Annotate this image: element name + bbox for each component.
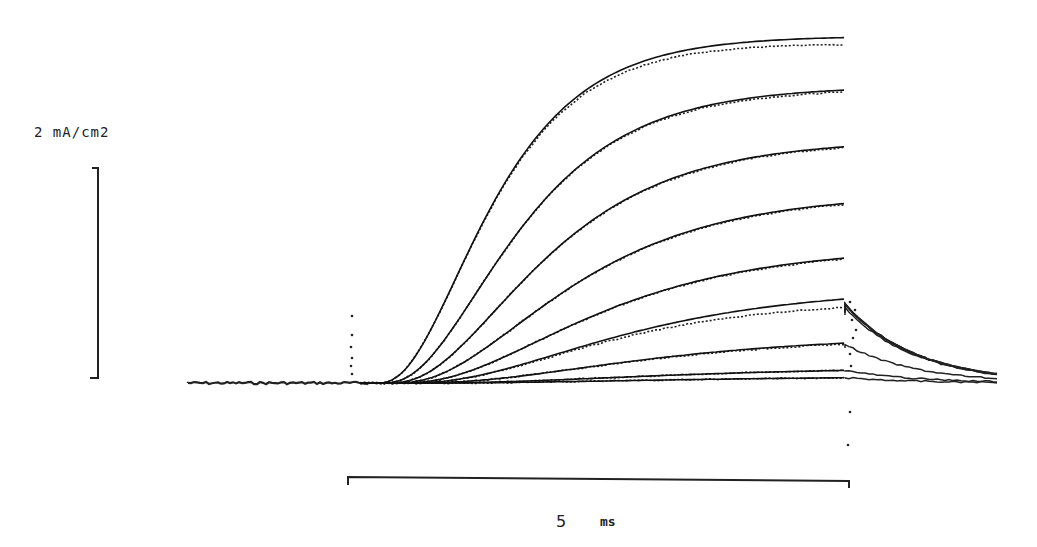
tail-trace-4 — [845, 304, 997, 374]
artifact-dot — [850, 365, 853, 368]
artifact-dot — [350, 365, 353, 368]
artifact-dot — [849, 353, 852, 356]
tail-trace-2 — [845, 304, 997, 374]
data-trace-2 — [360, 92, 844, 384]
artifact-dot — [351, 315, 354, 318]
artifact-dot — [852, 337, 855, 340]
fit-trace-2 — [360, 90, 844, 383]
artifact-dot — [855, 329, 858, 332]
time-scale-bar — [348, 477, 849, 488]
current-traces-plot — [0, 0, 1037, 547]
artifact-dot — [351, 373, 354, 376]
fit-trace-1 — [360, 38, 844, 383]
prestep-baseline — [188, 382, 368, 384]
fitted-model-traces — [360, 38, 844, 383]
artifact-dot — [350, 346, 353, 349]
tail-trace-5 — [845, 304, 997, 375]
scale-bars — [90, 168, 849, 488]
time-scale-unit: ms — [600, 514, 616, 529]
artifact-dot — [847, 444, 850, 447]
data-trace-4 — [360, 205, 844, 384]
artifact-dot — [849, 301, 852, 304]
artifact-dot — [351, 334, 354, 337]
artifact-dot — [854, 309, 857, 312]
baseline-trace — [188, 382, 368, 384]
tail-current-traces — [845, 304, 997, 384]
fit-trace-5 — [360, 258, 844, 383]
time-scale-value: 5 — [556, 512, 566, 531]
current-scale-label: 2 mA/cm2 — [34, 124, 109, 140]
tail-trace-3 — [845, 304, 997, 374]
tail-trace-6 — [845, 307, 997, 374]
artifact-dot — [351, 357, 354, 360]
tail-trace-1 — [845, 304, 997, 374]
artifact-dot — [851, 319, 854, 322]
artifact-dot — [849, 411, 852, 414]
current-scale-bar — [90, 168, 98, 378]
